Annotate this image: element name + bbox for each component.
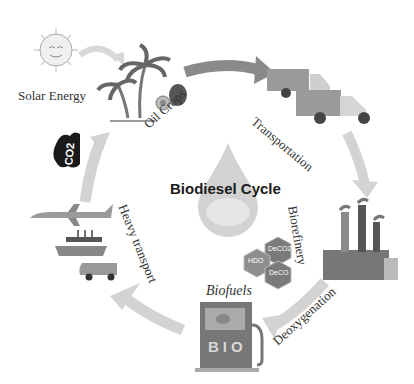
van-icon — [79, 263, 117, 281]
hexagon-label-hdo: HDO — [248, 257, 264, 264]
factory-icon — [323, 199, 398, 280]
airplane-icon — [30, 204, 113, 226]
sun-to-crops-arrow — [80, 49, 118, 60]
hexagon-label-deco2: DeCO2 — [268, 245, 291, 252]
label-solar-energy: Solar Energy — [18, 88, 86, 104]
biofuels-to-transport-arrow — [122, 295, 183, 330]
truck-icon — [267, 69, 370, 124]
hexagon-label-deco: DeCO — [269, 269, 288, 276]
crops-to-transport-arrow — [185, 65, 260, 72]
diagram-title: Biodiesel Cycle — [170, 180, 281, 197]
biodiesel-cycle-diagram: Solar Energy Oil Crops Transportation Bi… — [0, 0, 414, 384]
sun-icon — [34, 28, 78, 72]
fuel-pump-icon — [195, 302, 262, 372]
pump-label: BIO — [208, 338, 247, 355]
ship-icon — [55, 230, 107, 256]
transport-to-refinery-arrow — [347, 133, 365, 185]
co2-label: CO2 — [62, 142, 76, 166]
label-biofuels: Biofuels — [206, 283, 252, 299]
